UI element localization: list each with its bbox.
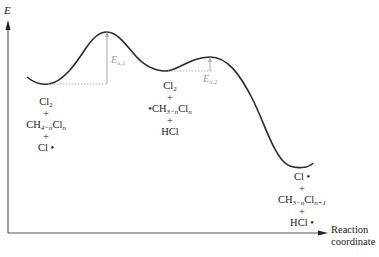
products-label: Cl • + CH3−nCln+1 + HCl • <box>278 171 326 229</box>
x-axis-label: Reaction coordinate <box>331 224 375 248</box>
y-axis-label: E <box>4 4 11 16</box>
x-axis-label-line1: Reaction <box>331 224 375 236</box>
activation-energy-2-label: Ea,2 <box>203 73 217 84</box>
x-axis-arrow-icon <box>318 231 328 236</box>
intermediate-label: Cl2 + •CH3−nCln + HCl <box>148 80 191 138</box>
y-axis-arrow-icon <box>6 20 11 30</box>
activation-energy-1-label: Ea,1 <box>111 54 125 65</box>
reactants-label: Cl2 + CH4−nCln + Cl • <box>26 96 66 154</box>
x-axis-label-line2: coordinate <box>331 236 375 248</box>
